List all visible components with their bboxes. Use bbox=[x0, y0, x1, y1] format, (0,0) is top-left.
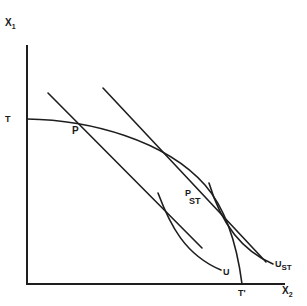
x-axis-label: X2 bbox=[282, 285, 293, 298]
point-p-label: P bbox=[72, 125, 79, 136]
trade-diagram: X1 T P PST U UST T' X2 bbox=[0, 0, 307, 306]
ppf-start-label: T bbox=[5, 114, 11, 124]
price-line-p bbox=[48, 93, 202, 248]
ppf-end-label: T' bbox=[238, 288, 246, 298]
y-axis-label: X1 bbox=[5, 17, 16, 30]
axes bbox=[27, 45, 285, 284]
price-line-pst bbox=[103, 88, 266, 262]
indifference-ust-label: UST bbox=[275, 259, 292, 272]
indifference-u-label: U bbox=[223, 267, 230, 277]
indifference-curve-ust bbox=[209, 183, 273, 264]
